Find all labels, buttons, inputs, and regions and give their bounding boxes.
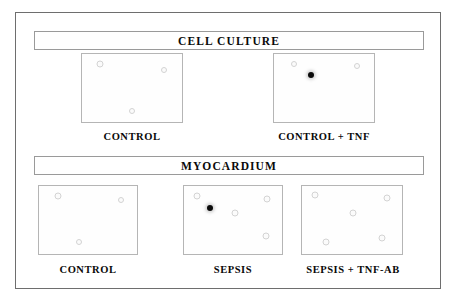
faint-spot: [323, 239, 330, 246]
dark-spot: [308, 72, 314, 78]
panel-caption-myocardium-sepsis: SEPSIS: [168, 264, 298, 275]
faint-spot: [54, 193, 61, 200]
faint-spot: [118, 197, 124, 203]
faint-spot: [97, 60, 104, 67]
faint-spot: [384, 195, 391, 202]
panel-caption-cell-culture-control-tnf: CONTROL + TNF: [255, 131, 393, 142]
panel-caption-myocardium-control: CONTROL: [23, 264, 153, 275]
section-banner-myocardium: MYOCARDIUM: [34, 156, 424, 175]
membrane-panel-cell-culture-control-tnf: [273, 53, 375, 123]
dark-spot: [207, 205, 213, 211]
panel-caption-myocardium-sepsis-tnf-ab: SEPSIS + TNF-AB: [289, 264, 417, 275]
faint-spot: [76, 239, 82, 245]
figure-outer-frame: CELL CULTURE MYOCARDIUM CONTROLCONTROL +…: [15, 12, 441, 289]
faint-spot: [312, 191, 319, 198]
faint-spot: [264, 195, 271, 202]
faint-spot: [291, 61, 297, 67]
faint-spot: [379, 234, 386, 241]
panel-caption-cell-culture-control: CONTROL: [63, 131, 201, 142]
faint-spot: [350, 210, 357, 217]
section-banner-label-cell-culture: CELL CULTURE: [178, 35, 280, 47]
membrane-panel-cell-culture-control: [81, 53, 183, 123]
faint-spot: [193, 192, 200, 199]
faint-spot: [129, 108, 135, 114]
faint-spot: [231, 210, 238, 217]
figure-root: CELL CULTURE MYOCARDIUM CONTROLCONTROL +…: [0, 0, 458, 299]
faint-spot: [354, 63, 360, 69]
faint-spot: [263, 232, 270, 239]
membrane-panel-myocardium-control: [38, 185, 138, 255]
section-banner-cell-culture: CELL CULTURE: [34, 31, 424, 50]
section-banner-label-myocardium: MYOCARDIUM: [181, 160, 277, 172]
faint-spot: [161, 67, 167, 73]
membrane-panel-myocardium-sepsis-tnf-ab: [301, 185, 403, 255]
membrane-panel-myocardium-sepsis: [183, 185, 283, 255]
